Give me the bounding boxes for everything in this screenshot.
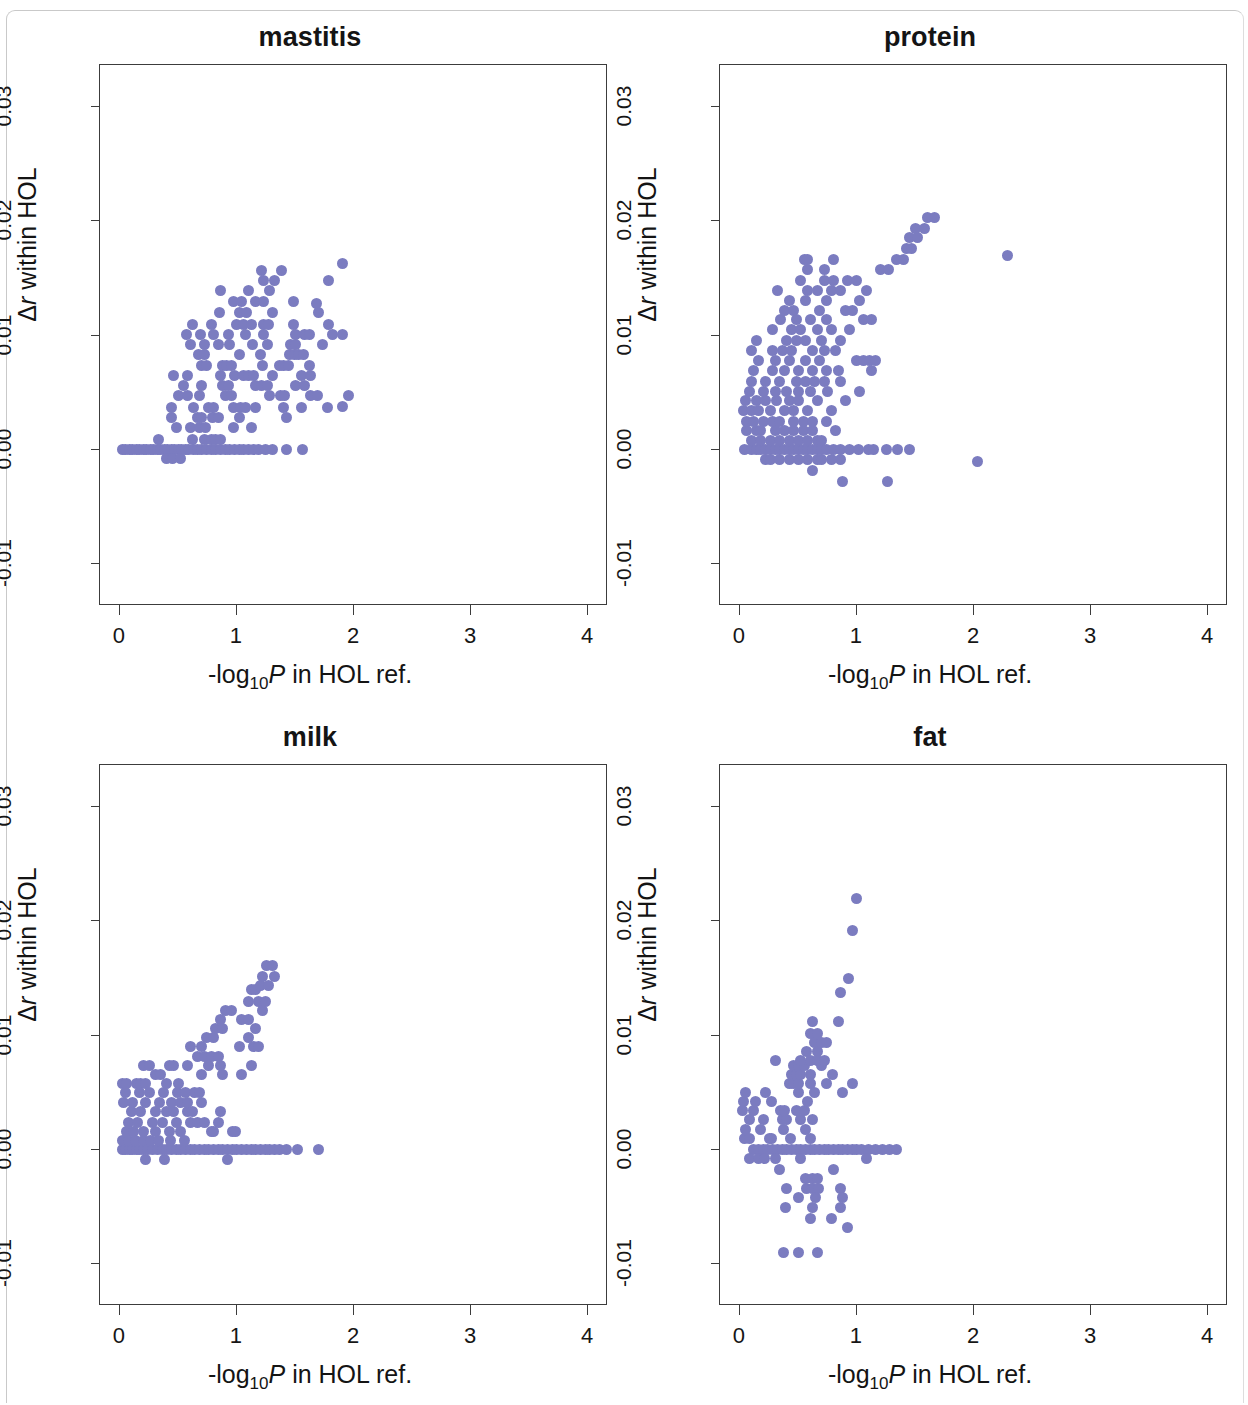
scatter-point (830, 425, 841, 436)
scatter-point (760, 376, 771, 387)
y-axis-title-suffix: within HOL (633, 167, 661, 296)
scatter-point (793, 1192, 804, 1203)
scatter-point (883, 264, 894, 275)
scatter-point (312, 390, 323, 401)
scatter-point (770, 1153, 781, 1164)
scatter-point (264, 285, 275, 296)
scatter-point (830, 345, 841, 356)
x-axis-title-subscript: 10 (870, 674, 889, 693)
data-points-layer (720, 765, 1226, 1304)
y-axis-tick (91, 449, 100, 450)
scatter-point (840, 395, 851, 406)
scatter-point (196, 1097, 207, 1108)
y-axis-tick (711, 335, 720, 336)
x-axis-tick (119, 605, 120, 615)
scatter-point (766, 1133, 777, 1144)
y-axis-title-suffix: within HOL (633, 867, 661, 996)
x-axis-tick (1090, 605, 1091, 615)
y-axis-tick (91, 1263, 100, 1264)
scatter-point (257, 971, 268, 982)
panel-title: milk (0, 722, 620, 753)
x-axis-tick (856, 605, 857, 615)
scatter-point (842, 1222, 853, 1233)
scatter-point (740, 1087, 751, 1098)
scatter-point (861, 1153, 872, 1164)
scatter-point (317, 339, 328, 350)
scatter-point (812, 285, 823, 296)
scatter-point (851, 275, 862, 286)
scatter-point (812, 1247, 823, 1258)
y-axis-title: Δr within HOL (13, 75, 42, 415)
scatter-point (826, 324, 837, 335)
scatter-point (168, 1060, 179, 1071)
scatter-point (267, 370, 278, 381)
scatter-point (847, 1078, 858, 1089)
x-axis-tick (1090, 1305, 1091, 1315)
scatter-point (802, 254, 813, 265)
y-axis-tick (711, 449, 720, 450)
scatter-point (281, 444, 292, 455)
scatter-point (144, 1060, 155, 1071)
scatter-point (195, 329, 206, 340)
scatter-point (140, 1097, 151, 1108)
scatter-point (750, 1096, 761, 1107)
scatter-point (786, 345, 797, 356)
scatter-point (866, 365, 877, 376)
y-axis-tick (711, 1149, 720, 1150)
x-axis-tick-label: 0 (99, 1323, 139, 1349)
y-axis-tick (711, 1263, 720, 1264)
scatter-point (288, 319, 299, 330)
scatter-point (827, 1069, 838, 1080)
scatter-point (228, 422, 239, 433)
x-axis-title-subscript: 10 (250, 1374, 269, 1393)
scatter-point (337, 258, 348, 269)
scatter-point (236, 296, 247, 307)
scatter-point (833, 365, 844, 376)
scatter-point (778, 1124, 789, 1135)
scatter-point (853, 444, 864, 455)
y-axis-tick-label: -0.01 (612, 1227, 636, 1299)
scatter-point (153, 434, 164, 445)
scatter-point (929, 212, 940, 223)
scatter-point (223, 329, 234, 340)
scatter-point (140, 1154, 151, 1165)
data-points-layer (100, 765, 606, 1304)
y-axis-title: Δr within HOL (633, 775, 662, 1115)
x-axis-tick (739, 1305, 740, 1315)
scatter-point (194, 1087, 205, 1098)
y-axis-tick-label: -0.01 (0, 527, 16, 599)
scatter-point (311, 298, 322, 309)
scatter-point (851, 893, 862, 904)
scatter-point (234, 1041, 245, 1052)
scatter-point (882, 476, 893, 487)
y-axis-tick (91, 106, 100, 107)
scatter-point (292, 1144, 303, 1155)
scatter-point (343, 390, 354, 401)
scatter-point (276, 265, 287, 276)
scatter-point (182, 1060, 193, 1071)
scatter-point (208, 329, 219, 340)
x-axis-title-prefix: -log (208, 660, 250, 688)
scatter-point (780, 1202, 791, 1213)
x-axis-tick-label: 4 (1187, 623, 1227, 649)
scatter-point (178, 380, 189, 391)
scatter-point (819, 264, 830, 275)
scatter-point (807, 1016, 818, 1027)
scatter-point (201, 360, 212, 371)
scatter-point (816, 335, 827, 346)
scatter-point (194, 390, 205, 401)
x-axis-tick-label: 2 (333, 623, 373, 649)
x-axis-tick-label: 1 (836, 1323, 876, 1349)
x-axis-tick-label: 0 (99, 623, 139, 649)
scatter-point (157, 1117, 168, 1128)
scatter-point (781, 1114, 792, 1125)
scatter-point (185, 1041, 196, 1052)
y-axis-title: Δr within HOL (13, 775, 42, 1115)
delta-symbol: Δ (13, 1005, 41, 1022)
scatter-point (767, 365, 778, 376)
plot-area (99, 64, 607, 605)
scatter-point (805, 1213, 816, 1224)
scatter-point (772, 285, 783, 296)
y-axis-tick-label: -0.01 (612, 527, 636, 599)
scatter-point (243, 285, 254, 296)
